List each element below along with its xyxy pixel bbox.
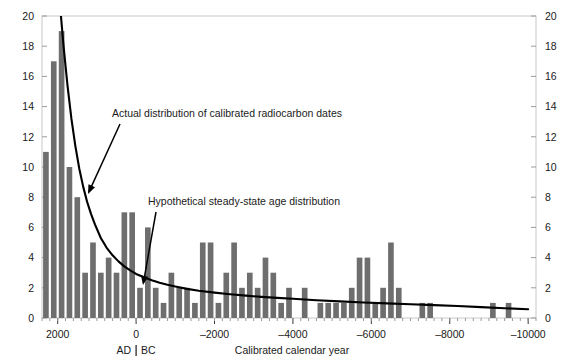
bar — [208, 243, 214, 319]
y-axis-left-tick-label: 8 — [28, 191, 34, 203]
y-axis-right-tick-label: 18 — [545, 40, 557, 52]
bar — [333, 303, 339, 318]
bar — [200, 243, 206, 319]
y-axis-left-tick-label: 2 — [28, 282, 34, 294]
x-axis-title: Calibrated calendar year — [235, 344, 350, 356]
y-axis-left-tick-label: 10 — [22, 161, 34, 173]
bar — [82, 273, 88, 318]
annotation-text-actual-distribution: Actual distribution of calibrated radioc… — [112, 107, 342, 119]
y-axis-right-tick-label: 8 — [545, 191, 551, 203]
bar — [239, 288, 245, 318]
bar — [341, 303, 347, 318]
bar — [231, 243, 237, 319]
x-axis-tick-label: –2000 — [200, 328, 229, 340]
bar — [318, 303, 324, 318]
y-axis-left-tick-label: 0 — [28, 312, 34, 324]
bar — [90, 243, 96, 319]
y-axis-left-tick-label: 6 — [28, 221, 34, 233]
bar — [74, 197, 80, 318]
x-axis-tick-label: –10000 — [511, 328, 546, 340]
bar — [388, 243, 394, 319]
x-axis-tick-label: –8000 — [435, 328, 464, 340]
bar — [357, 258, 363, 318]
bar — [506, 303, 512, 318]
bar — [114, 273, 120, 318]
bar — [263, 258, 269, 318]
annotation-text-hypothetical-steady-state: Hypothetical steady-state age distributi… — [148, 195, 340, 207]
bar — [129, 212, 135, 318]
bar — [169, 273, 175, 318]
era-label-bc: BC — [141, 344, 156, 356]
bar — [106, 258, 112, 318]
x-axis-tick-label: 0 — [133, 328, 139, 340]
x-axis-tick-label: 2000 — [46, 328, 70, 340]
y-axis-right-tick-label: 14 — [545, 100, 557, 112]
bar — [270, 273, 276, 318]
bar — [302, 288, 308, 318]
bar — [98, 273, 104, 318]
bar — [137, 288, 143, 318]
bar — [176, 288, 182, 318]
radiocarbon-age-distribution-chart: 02468101214161820 02468101214161820 2000… — [0, 0, 578, 363]
era-label-ad: AD — [117, 344, 132, 356]
y-axis-right-tick-label: 12 — [545, 131, 557, 143]
y-axis-right-tick-label: 10 — [545, 161, 557, 173]
bar — [325, 303, 331, 318]
y-axis-right-tick-label: 2 — [545, 282, 551, 294]
y-axis-left-tick-label: 4 — [28, 251, 34, 263]
bar — [223, 273, 229, 318]
bar — [43, 152, 49, 318]
y-axis-right-tick-label: 16 — [545, 70, 557, 82]
bar — [255, 288, 261, 318]
bar — [278, 303, 284, 318]
bar — [184, 288, 190, 318]
bar — [286, 288, 292, 318]
bar — [67, 167, 73, 318]
y-axis-left-tick-label: 14 — [22, 100, 34, 112]
chart-canvas: 02468101214161820 02468101214161820 2000… — [0, 0, 578, 363]
bar — [365, 258, 371, 318]
y-axis-right-tick-label: 6 — [545, 221, 551, 233]
x-axis-tick-label: –6000 — [357, 328, 386, 340]
y-axis-left-tick-label: 20 — [22, 10, 34, 22]
bar — [372, 303, 378, 318]
y-axis-left-tick-label: 12 — [22, 131, 34, 143]
bar — [192, 303, 198, 318]
y-axis-right-tick-label: 0 — [545, 312, 551, 324]
y-axis-right-tick-label: 4 — [545, 251, 551, 263]
y-axis-right-tick-label: 20 — [545, 10, 557, 22]
bar — [59, 31, 65, 318]
y-axis-left-tick-label: 18 — [22, 40, 34, 52]
bar — [216, 303, 222, 318]
bar — [490, 303, 496, 318]
bar — [161, 303, 167, 318]
bar — [153, 288, 159, 318]
x-axis-tick-label: –4000 — [278, 328, 307, 340]
y-axis-left-tick-label: 16 — [22, 70, 34, 82]
bar — [51, 61, 57, 318]
